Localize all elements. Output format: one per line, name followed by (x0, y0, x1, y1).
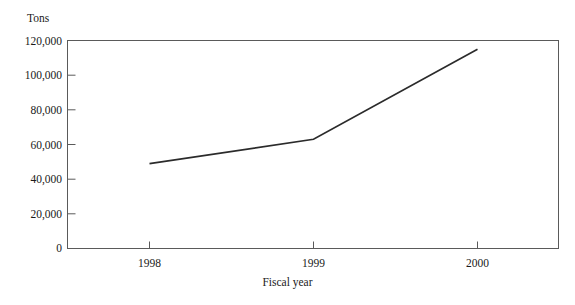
plot-frame (68, 41, 559, 249)
x-axis-label-1998: 1998 (120, 257, 180, 269)
x-axis-label-1999: 1999 (284, 257, 344, 269)
y-axis-label-100000: 100,000 (2, 69, 62, 81)
y-axis-label-60000: 60,000 (2, 139, 62, 151)
y-axis-label-80000: 80,000 (2, 104, 62, 116)
y-axis-label-0: 0 (2, 242, 62, 254)
y-axis-label-120000: 120,000 (2, 35, 62, 47)
figure-root: Tons 0 20,000 40,000 60,000 80,000 100,0… (0, 0, 575, 305)
y-axis-label-40000: 40,000 (2, 173, 62, 185)
x-axis-ticks (150, 242, 478, 249)
data-series-line (150, 49, 478, 163)
x-axis-label-2000: 2000 (448, 257, 508, 269)
y-axis-ticks (68, 75, 76, 214)
x-axis-title: Fiscal year (0, 276, 575, 289)
y-axis-label-20000: 20,000 (2, 208, 62, 220)
